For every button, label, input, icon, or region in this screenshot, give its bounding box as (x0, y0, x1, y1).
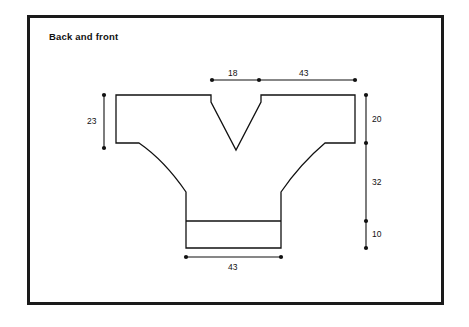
dim-tick-right-bottom (364, 246, 368, 250)
left-dimension-line (102, 93, 106, 150)
dim-tick-top-mid (257, 78, 261, 82)
dim-label-right-middle-height: 32 (372, 177, 381, 187)
dim-label-left-height: 23 (87, 116, 96, 126)
dim-label-bottom-width: 43 (228, 262, 237, 272)
dim-tick-left-top (102, 93, 106, 97)
dim-tick-bottom-left (184, 255, 188, 259)
top-dimension-line (210, 78, 357, 82)
dim-label-top-right-width: 43 (299, 68, 308, 78)
dim-tick-top-left (210, 78, 214, 82)
diagram-page: Back and front (0, 0, 469, 327)
dim-tick-right-upper (364, 141, 368, 145)
right-dimension-line (364, 93, 368, 250)
dim-tick-right-top (364, 93, 368, 97)
dim-label-right-lower-height: 10 (372, 229, 381, 239)
dim-tick-left-bottom (102, 146, 106, 150)
garment-outline (116, 95, 355, 248)
dim-tick-top-right (353, 78, 357, 82)
schematic-drawing (0, 0, 469, 327)
dim-label-neck-width: 18 (228, 68, 237, 78)
dim-tick-bottom-right (279, 255, 283, 259)
dim-tick-right-lower (364, 219, 368, 223)
bottom-dimension-line (184, 255, 283, 259)
dim-label-right-upper-height: 20 (372, 114, 381, 124)
